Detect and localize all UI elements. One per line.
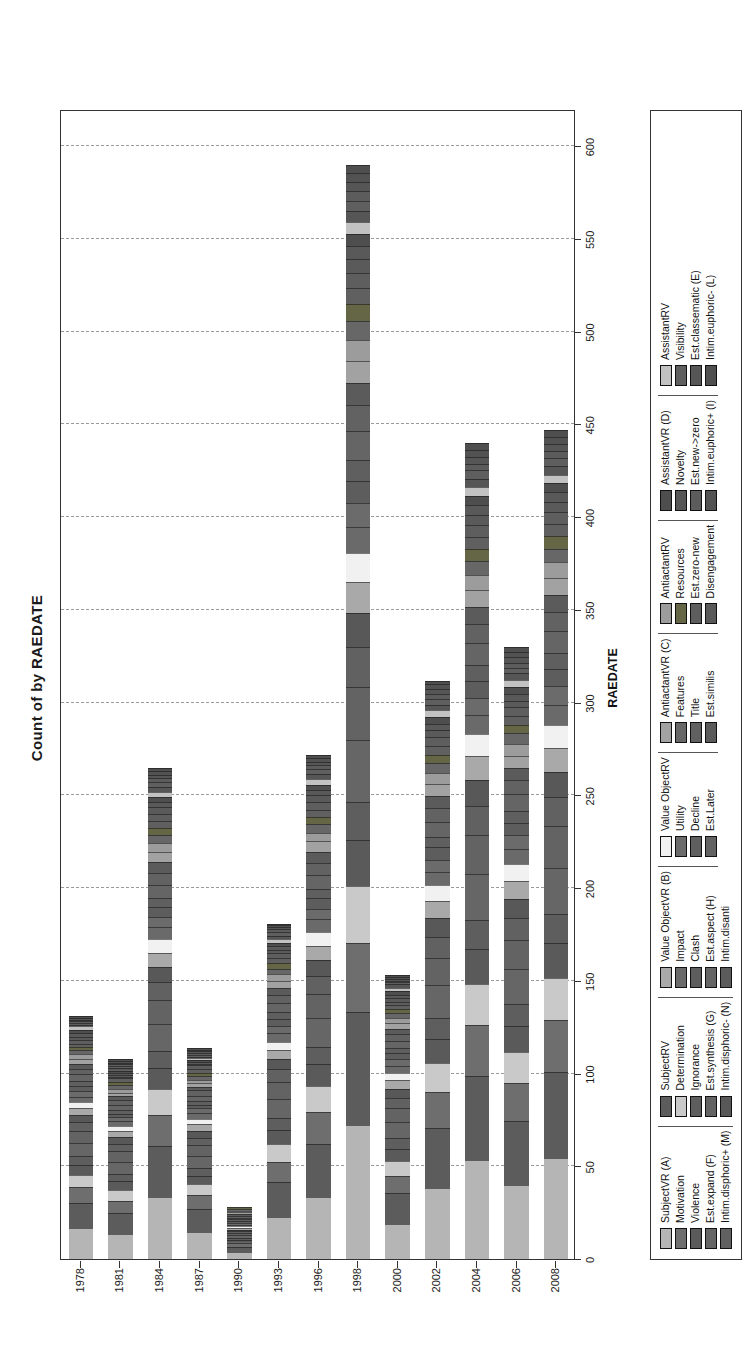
bar-segment[interactable] bbox=[306, 863, 331, 875]
bar-segment[interactable] bbox=[69, 1097, 94, 1102]
bar-segment[interactable] bbox=[544, 475, 569, 484]
bar-segment[interactable] bbox=[504, 733, 529, 743]
bar-segment[interactable] bbox=[346, 527, 371, 553]
bar-segment[interactable] bbox=[544, 524, 569, 536]
bar-segment[interactable] bbox=[306, 1086, 331, 1113]
bar-segment[interactable] bbox=[267, 1059, 292, 1069]
bar-segment[interactable] bbox=[504, 835, 529, 849]
bar-segment[interactable] bbox=[385, 977, 410, 979]
bar-segment[interactable] bbox=[504, 780, 529, 794]
bar-segment[interactable] bbox=[504, 658, 529, 663]
bar-segment[interactable] bbox=[69, 1054, 94, 1059]
bar-segment[interactable] bbox=[187, 1064, 212, 1066]
bar-segment[interactable] bbox=[187, 1073, 212, 1077]
bar-segment[interactable] bbox=[148, 778, 173, 781]
bar-segment[interactable] bbox=[108, 1093, 133, 1097]
bar-segment[interactable] bbox=[306, 909, 331, 920]
bar-segment[interactable] bbox=[465, 1076, 490, 1160]
bar-segment[interactable] bbox=[148, 1146, 173, 1198]
bar-segment[interactable] bbox=[267, 974, 292, 981]
bar-segment[interactable] bbox=[69, 1187, 94, 1202]
bar-segment[interactable] bbox=[108, 1096, 133, 1100]
bar-segment[interactable] bbox=[465, 756, 490, 780]
bar-segment[interactable] bbox=[425, 958, 450, 986]
bar-segment[interactable] bbox=[267, 988, 292, 995]
bar-segment[interactable] bbox=[504, 1185, 529, 1259]
bar-segment[interactable] bbox=[187, 1055, 212, 1057]
bar-segment[interactable] bbox=[465, 1160, 490, 1259]
bar-segment[interactable] bbox=[504, 768, 529, 780]
bar-segment[interactable] bbox=[385, 1029, 410, 1034]
bar-segment[interactable] bbox=[267, 963, 292, 968]
bar-segment[interactable] bbox=[346, 1125, 371, 1259]
bar-segment[interactable] bbox=[346, 361, 371, 383]
bar-segment[interactable] bbox=[465, 515, 490, 525]
bar-segment[interactable] bbox=[425, 937, 450, 958]
bar-segment[interactable] bbox=[346, 234, 371, 246]
bar-segment[interactable] bbox=[306, 1144, 331, 1197]
bar-segment[interactable] bbox=[227, 1240, 252, 1242]
legend-item[interactable]: Determination bbox=[673, 1002, 688, 1117]
stacked-bar[interactable] bbox=[108, 1059, 133, 1259]
bar-segment[interactable] bbox=[148, 885, 173, 899]
bar-segment[interactable] bbox=[425, 796, 450, 808]
bar-segment[interactable] bbox=[385, 1053, 410, 1058]
bar-segment[interactable] bbox=[69, 1156, 94, 1165]
bar-segment[interactable] bbox=[187, 1080, 212, 1084]
bar-segment[interactable] bbox=[306, 960, 331, 976]
bar-segment[interactable] bbox=[187, 1096, 212, 1101]
bar-segment[interactable] bbox=[306, 765, 331, 769]
bar-segment[interactable] bbox=[504, 918, 529, 940]
bar-segment[interactable] bbox=[346, 582, 371, 613]
bar-segment[interactable] bbox=[108, 1100, 133, 1105]
bar-segment[interactable] bbox=[306, 946, 331, 960]
bar-segment[interactable] bbox=[504, 725, 529, 734]
bar-segment[interactable] bbox=[425, 918, 450, 937]
bar-segment[interactable] bbox=[148, 792, 173, 797]
bar-segment[interactable] bbox=[187, 1184, 212, 1195]
bar-segment[interactable] bbox=[346, 687, 371, 740]
bar-segment[interactable] bbox=[108, 1117, 133, 1121]
bar-segment[interactable] bbox=[306, 817, 331, 824]
bar-segment[interactable] bbox=[148, 797, 173, 802]
bar-segment[interactable] bbox=[385, 1041, 410, 1048]
legend-item[interactable]: Utility bbox=[673, 757, 688, 857]
bar-segment[interactable] bbox=[69, 1044, 94, 1047]
bar-segment[interactable] bbox=[148, 852, 173, 862]
bar-segment[interactable] bbox=[108, 1144, 133, 1151]
bar-segment[interactable] bbox=[346, 553, 371, 582]
bar-segment[interactable] bbox=[544, 492, 569, 502]
bar-segment[interactable] bbox=[187, 1062, 212, 1064]
bar-segment[interactable] bbox=[108, 1066, 133, 1068]
bar-segment[interactable] bbox=[544, 797, 569, 826]
bar-segment[interactable] bbox=[108, 1174, 133, 1181]
bar-segment[interactable] bbox=[267, 995, 292, 1004]
bar-segment[interactable] bbox=[69, 1102, 94, 1109]
bar-segment[interactable] bbox=[227, 1211, 252, 1213]
bar-segment[interactable] bbox=[148, 898, 173, 907]
bar-segment[interactable] bbox=[69, 1026, 94, 1029]
bar-segment[interactable] bbox=[306, 755, 331, 759]
bar-segment[interactable] bbox=[385, 988, 410, 992]
bar-segment[interactable] bbox=[465, 450, 490, 457]
bar-segment[interactable] bbox=[187, 1060, 212, 1062]
bar-segment[interactable] bbox=[267, 1082, 292, 1099]
bar-segment[interactable] bbox=[306, 1112, 331, 1144]
bar-segment[interactable] bbox=[544, 653, 569, 668]
bar-segment[interactable] bbox=[385, 1089, 410, 1098]
bar-segment[interactable] bbox=[544, 578, 569, 595]
bar-segment[interactable] bbox=[108, 1201, 133, 1213]
bar-segment[interactable] bbox=[108, 1064, 133, 1066]
bar-segment[interactable] bbox=[267, 969, 292, 974]
bar-segment[interactable] bbox=[504, 1121, 529, 1185]
bar-segment[interactable] bbox=[306, 919, 331, 931]
bar-segment[interactable] bbox=[465, 734, 490, 756]
bar-segment[interactable] bbox=[504, 707, 529, 716]
bar-segment[interactable] bbox=[346, 405, 371, 431]
bar-segment[interactable] bbox=[425, 730, 450, 737]
bar-segment[interactable] bbox=[108, 1085, 133, 1089]
bar-segment[interactable] bbox=[385, 1023, 410, 1028]
bar-segment[interactable] bbox=[504, 1004, 529, 1026]
bar-segment[interactable] bbox=[346, 613, 371, 647]
bar-segment[interactable] bbox=[544, 562, 569, 577]
